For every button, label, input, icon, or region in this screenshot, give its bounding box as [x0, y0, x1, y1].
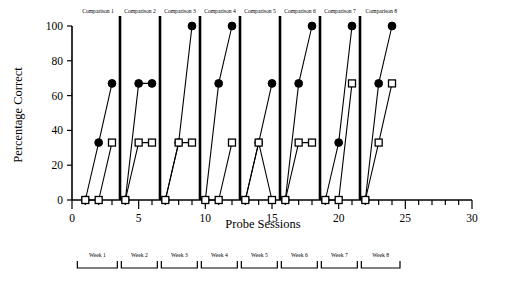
y-tick-label: 60 [52, 90, 64, 102]
x-tick-label: 20 [333, 212, 345, 224]
data-point-open-square [122, 197, 129, 204]
data-point-open-square [149, 139, 156, 146]
data-point-open-square [362, 197, 369, 204]
y-tick-label: 0 [57, 194, 63, 206]
x-tick-label: 5 [136, 212, 142, 224]
data-point-open-square [215, 197, 222, 204]
series-segment [165, 26, 192, 200]
week-bracket [121, 261, 157, 268]
data-point-filled-circle [108, 80, 116, 88]
series-segment [205, 143, 232, 200]
percentage-correct-line-chart: Percentage Correct 020406080100 05101520… [0, 0, 526, 290]
data-point-filled-circle [335, 139, 343, 147]
data-point-open-square [109, 139, 116, 146]
panel-label: Comparison 6 [284, 8, 316, 14]
data-point-open-square [95, 197, 102, 204]
x-tick-label: 10 [200, 212, 212, 224]
y-tick-label: 80 [52, 55, 64, 67]
week-bracket [201, 261, 237, 268]
data-point-filled-circle [388, 22, 396, 30]
x-tick-label: 25 [400, 212, 412, 224]
data-point-filled-circle [308, 22, 316, 30]
y-axis-tick-labels: 020406080100 [46, 20, 64, 206]
week-bracket [161, 261, 197, 268]
data-point-open-square [309, 139, 316, 146]
week-bracket-labels: Week 1Week 2Week 3Week 4Week 5Week 6Week… [89, 252, 389, 258]
data-point-open-square [282, 197, 289, 204]
data-series-layer [81, 22, 395, 204]
panel-labels: Comparison 1Comparison 2Comparison 3Comp… [82, 8, 397, 14]
week-bracket [77, 261, 117, 268]
chart-figure: Percentage Correct 020406080100 05101520… [0, 0, 526, 290]
week-bracket-label: Week 6 [291, 252, 308, 258]
x-tick-label: 0 [69, 212, 75, 224]
week-bracket-label: Week 2 [131, 252, 148, 258]
data-point-open-square [189, 139, 196, 146]
week-bracket [241, 261, 277, 268]
data-point-open-square [255, 139, 262, 146]
data-point-filled-circle [228, 22, 236, 30]
data-point-open-square [269, 197, 276, 204]
panel-label: Comparison 4 [204, 8, 236, 14]
y-tick-label: 20 [52, 159, 64, 171]
week-brackets [77, 261, 400, 268]
data-point-open-square [389, 80, 396, 87]
data-point-filled-circle [148, 80, 156, 88]
panel-label: Comparison 2 [124, 8, 156, 14]
week-bracket [281, 261, 317, 268]
series-segment [285, 143, 312, 200]
data-point-filled-circle [188, 22, 196, 30]
data-point-open-square [375, 139, 382, 146]
panel-dividers [120, 16, 360, 200]
data-point-open-square [322, 197, 329, 204]
series-segment [165, 143, 192, 200]
series-segment [205, 26, 232, 200]
series-segment [125, 143, 152, 200]
panel-label: Comparison 1 [82, 8, 114, 14]
week-bracket [361, 261, 400, 268]
week-bracket-label: Week 8 [372, 252, 389, 258]
x-tick-label: 30 [466, 212, 478, 224]
series-segment [325, 26, 352, 200]
series-open-square [82, 80, 396, 204]
x-axis-title: Probe Sessions [225, 217, 300, 231]
week-bracket-label: Week 4 [211, 252, 228, 258]
series-segment [85, 143, 112, 200]
data-point-filled-circle [348, 22, 356, 30]
data-point-filled-circle [135, 80, 143, 88]
y-tick-label: 100 [46, 20, 64, 32]
week-bracket-label: Week 7 [331, 252, 348, 258]
data-point-open-square [295, 139, 302, 146]
series-segment [285, 26, 312, 200]
data-point-filled-circle [215, 80, 223, 88]
data-point-filled-circle [95, 139, 103, 147]
panel-label: Comparison 3 [164, 8, 196, 14]
week-bracket-label: Week 3 [171, 252, 188, 258]
series-segment [365, 26, 392, 200]
data-point-open-square [175, 139, 182, 146]
week-bracket-label: Week 1 [89, 252, 106, 258]
panel-label: Comparison 7 [324, 8, 356, 14]
data-point-open-square [135, 139, 142, 146]
series-segment [245, 143, 272, 200]
data-point-open-square [202, 197, 209, 204]
y-axis-title: Percentage Correct [11, 67, 25, 163]
data-point-filled-circle [375, 80, 383, 88]
week-bracket-label: Week 5 [251, 252, 268, 258]
data-point-open-square [229, 139, 236, 146]
data-point-open-square [242, 197, 249, 204]
data-point-filled-circle [295, 80, 303, 88]
data-point-filled-circle [268, 80, 276, 88]
panel-label: Comparison 8 [366, 8, 398, 14]
data-point-open-square [335, 197, 342, 204]
panel-label: Comparison 5 [244, 8, 276, 14]
data-point-open-square [162, 197, 169, 204]
y-tick-label: 40 [52, 124, 64, 136]
data-point-open-square [349, 80, 356, 87]
week-bracket [321, 261, 357, 268]
data-point-open-square [82, 197, 89, 204]
